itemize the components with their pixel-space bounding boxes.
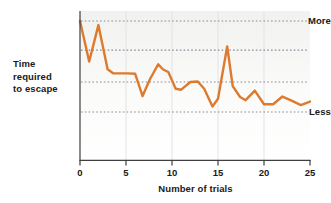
x-axis-tick-label-10: 10 [157, 167, 187, 178]
x-axis-title: Number of trials [80, 183, 311, 194]
y-axis-tick-label-more: More [257, 15, 331, 26]
y-axis-title-line-3: to escape [13, 83, 79, 96]
x-axis-tick-label-0: 0 [65, 167, 95, 178]
plot-background [80, 11, 310, 160]
x-axis-tick-label-20: 20 [249, 167, 279, 178]
x-axis-tick-label-15: 15 [203, 167, 233, 178]
chart-container: More Less Time required to escape 0 5 10… [0, 0, 331, 203]
y-axis-title-line-1: Time [13, 58, 79, 71]
x-axis-tick-label-25: 25 [295, 167, 325, 178]
y-axis-title: Time required to escape [13, 58, 79, 96]
y-axis-tick-label-less: Less [257, 106, 331, 117]
y-axis-title-line-2: required [13, 71, 79, 84]
x-axis-tick-label-5: 5 [111, 167, 141, 178]
